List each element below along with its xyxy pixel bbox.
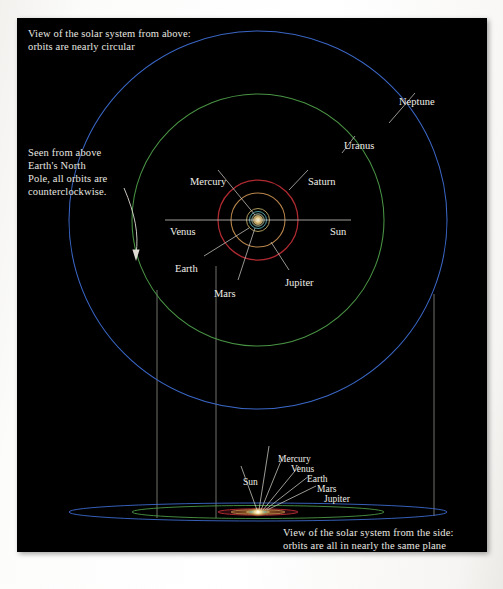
label-mercury-top: Mercury	[190, 176, 226, 188]
projection-lines	[157, 266, 434, 518]
label-venus-top: Venus	[170, 226, 196, 238]
leader-mars	[238, 228, 255, 280]
label-sun-top: Sun	[330, 226, 346, 238]
label-jupiter-side: Jupiter	[324, 494, 350, 505]
page-background: View of the solar system from above: orb…	[0, 0, 503, 589]
side-view-orbits	[69, 503, 447, 521]
leader-saturn	[289, 170, 308, 190]
caption-top-view: View of the solar system from above: orb…	[28, 27, 191, 53]
leader-side-mercury	[259, 446, 269, 510]
caption-counterclockwise: Seen from above Earth's North Pole, all …	[28, 146, 107, 198]
ccw-arrow-curve	[124, 188, 137, 254]
label-saturn-top: Saturn	[308, 176, 335, 188]
label-jupiter-top: Jupiter	[285, 277, 314, 289]
label-sun-side: Sun	[243, 477, 258, 488]
label-earth-top: Earth	[175, 263, 198, 275]
sun-body-side	[257, 511, 260, 514]
label-uranus-top: Uranus	[344, 140, 374, 152]
label-mars-top: Mars	[214, 288, 236, 300]
caption-side-view: View of the solar system from the side: …	[283, 526, 454, 552]
label-neptune-top: Neptune	[399, 96, 435, 108]
leader-jupiter	[271, 242, 289, 270]
solar-system-figure-panel: View of the solar system from above: orb…	[17, 18, 487, 552]
